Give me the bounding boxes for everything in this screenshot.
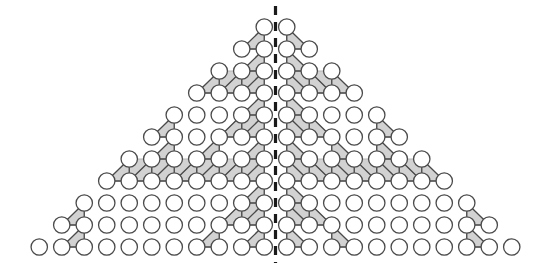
- lattice-node: [414, 173, 430, 189]
- lattice-node: [414, 239, 430, 255]
- lattice-node: [279, 41, 295, 57]
- lattice-node: [211, 129, 227, 145]
- lattice-node: [31, 239, 47, 255]
- lattice-node: [99, 195, 115, 211]
- lattice-node: [279, 195, 295, 211]
- lattice-node: [391, 129, 407, 145]
- lattice-node: [346, 129, 362, 145]
- lattice-node: [121, 217, 137, 233]
- lattice-node: [481, 217, 497, 233]
- lattice-node: [481, 239, 497, 255]
- lattice-node: [504, 239, 520, 255]
- lattice-node: [189, 173, 205, 189]
- lattice-node: [324, 63, 340, 79]
- lattice-node: [144, 151, 160, 167]
- lattice-node: [256, 19, 272, 35]
- lattice-node: [256, 173, 272, 189]
- lattice-node: [256, 63, 272, 79]
- lattice-node: [256, 217, 272, 233]
- lattice-node: [279, 217, 295, 233]
- lattice-node: [436, 173, 452, 189]
- lattice-node: [459, 195, 475, 211]
- lattice-node: [211, 63, 227, 79]
- lattice-node: [166, 239, 182, 255]
- lattice-node: [211, 217, 227, 233]
- lattice-node: [166, 173, 182, 189]
- lattice-node: [346, 217, 362, 233]
- lattice-node: [301, 63, 317, 79]
- lattice-node: [279, 19, 295, 35]
- lattice-node: [414, 195, 430, 211]
- lattice-node: [234, 239, 250, 255]
- lattice-node: [99, 239, 115, 255]
- lattice-node: [166, 151, 182, 167]
- lattice-node: [301, 217, 317, 233]
- lattice-node: [144, 239, 160, 255]
- lattice-node: [234, 41, 250, 57]
- lattice-node: [301, 107, 317, 123]
- lattice-node: [301, 129, 317, 145]
- lattice-node: [459, 239, 475, 255]
- lattice-node: [346, 239, 362, 255]
- lattice-node: [324, 239, 340, 255]
- lattice-node: [346, 151, 362, 167]
- lattice-node: [189, 239, 205, 255]
- lattice-node: [211, 107, 227, 123]
- lattice-node: [121, 151, 137, 167]
- lattice-node: [256, 41, 272, 57]
- lattice-node: [369, 107, 385, 123]
- lattice-node: [324, 217, 340, 233]
- lattice-node: [414, 151, 430, 167]
- lattice-node: [324, 129, 340, 145]
- lattice-node: [369, 239, 385, 255]
- lattice-node: [144, 217, 160, 233]
- lattice-node: [391, 195, 407, 211]
- lattice-node: [189, 217, 205, 233]
- lattice-node: [301, 151, 317, 167]
- lattice-node: [324, 85, 340, 101]
- lattice-node: [121, 173, 137, 189]
- lattice-node: [211, 173, 227, 189]
- lattice-node: [234, 85, 250, 101]
- lattice-node: [369, 217, 385, 233]
- lattice-node: [121, 239, 137, 255]
- lattice-node: [99, 173, 115, 189]
- lattice-node: [234, 151, 250, 167]
- lattice-node: [144, 195, 160, 211]
- lattice-node: [234, 129, 250, 145]
- lattice-node: [54, 217, 70, 233]
- lattice-node: [166, 129, 182, 145]
- lattice-node: [436, 195, 452, 211]
- lattice-node: [324, 173, 340, 189]
- lattice-node: [211, 195, 227, 211]
- lattice-node: [121, 195, 137, 211]
- lattice-node: [279, 63, 295, 79]
- lattice-node: [369, 129, 385, 145]
- lattice-node: [279, 151, 295, 167]
- lattice-node: [76, 239, 92, 255]
- lattice-node: [166, 107, 182, 123]
- diagram-canvas: [0, 0, 551, 269]
- lattice-node: [279, 239, 295, 255]
- lattice-node: [414, 217, 430, 233]
- lattice-node: [54, 239, 70, 255]
- lattice-node: [256, 151, 272, 167]
- lattice-node: [279, 173, 295, 189]
- lattice-node: [166, 195, 182, 211]
- lattice-node: [256, 195, 272, 211]
- lattice-node: [189, 151, 205, 167]
- lattice-node: [211, 151, 227, 167]
- lattice-node: [234, 195, 250, 211]
- lattice-node: [391, 217, 407, 233]
- lattice-node: [234, 63, 250, 79]
- lattice-node: [166, 217, 182, 233]
- lattice-node: [346, 195, 362, 211]
- lattice-node: [99, 217, 115, 233]
- lattice-node: [346, 107, 362, 123]
- lattice-node: [144, 173, 160, 189]
- lattice-node: [301, 195, 317, 211]
- triangular-lattice-figure: [0, 0, 551, 269]
- lattice-node: [279, 85, 295, 101]
- lattice-node: [391, 173, 407, 189]
- lattice-node: [301, 41, 317, 57]
